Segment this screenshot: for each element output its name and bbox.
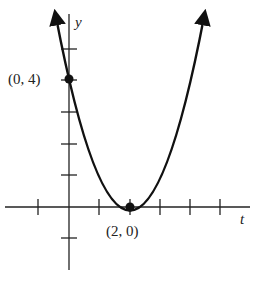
point-0-4: [65, 75, 74, 84]
t-axis-label: t: [240, 211, 245, 227]
point-label-2-0: (2, 0): [106, 223, 139, 240]
graph: y t (0, 4) (2, 0): [0, 0, 253, 290]
point-label-0-4: (0, 4): [8, 71, 41, 88]
y-axis-label: y: [73, 14, 82, 30]
point-2-0: [126, 203, 135, 212]
parabola-curve: [56, 17, 204, 211]
